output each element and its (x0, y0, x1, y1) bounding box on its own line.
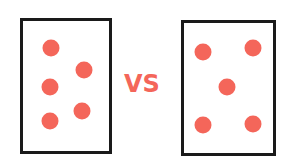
right-dot (195, 44, 212, 61)
right-dot (245, 116, 262, 133)
left-card (20, 18, 112, 154)
left-dot (42, 79, 59, 96)
left-dot (42, 113, 59, 130)
right-dot (219, 79, 236, 96)
left-dot (74, 103, 91, 120)
right-dot (245, 40, 262, 57)
left-dot (76, 62, 93, 79)
left-dot (43, 40, 60, 57)
vs-label: VS (124, 70, 164, 98)
right-dot (195, 117, 212, 134)
